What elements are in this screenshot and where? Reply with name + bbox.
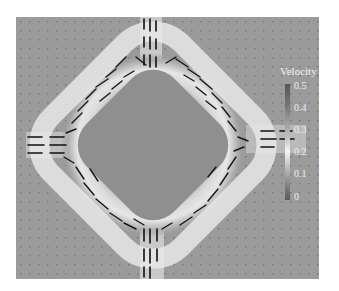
colorbar [285, 84, 290, 200]
colorbar-title: Velocity [280, 65, 317, 77]
colorbar-tick: 0.3 [294, 125, 307, 135]
colorbar-tick: 0.2 [294, 147, 307, 157]
vector-field-graphic [16, 17, 319, 279]
colorbar-tick: 0.5 [294, 81, 307, 91]
colorbar-tick: 0 [294, 192, 299, 202]
velocity-field-plot [16, 17, 319, 279]
colorbar-tick: 0.1 [294, 169, 307, 179]
colorbar-tick: 0.4 [294, 103, 307, 113]
